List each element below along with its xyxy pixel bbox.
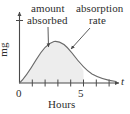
x-axis-tick-label-5: 5	[78, 88, 84, 99]
y-axis-label: mg	[0, 42, 9, 56]
annotation-absorption-rate-line1: absorption	[76, 3, 123, 14]
annotation-amount-absorbed-line1: amount	[31, 3, 65, 14]
shaded-amount-absorbed-region	[20, 41, 84, 83]
annotation-amount-absorbed-line2: absorbed	[27, 15, 68, 26]
absorption-rate-arrow	[71, 28, 90, 49]
x-axis-tick-label-0: 0	[16, 88, 22, 99]
annotation-absorption-rate-line2: rate	[89, 15, 106, 26]
x-axis-caption: Hours	[48, 99, 75, 110]
absorption-rate-figure: amount absorbed absorption rate mg 0 5 t…	[0, 0, 130, 114]
x-axis-variable-label: t	[121, 76, 124, 87]
amount-absorbed-arrow	[48, 27, 49, 47]
